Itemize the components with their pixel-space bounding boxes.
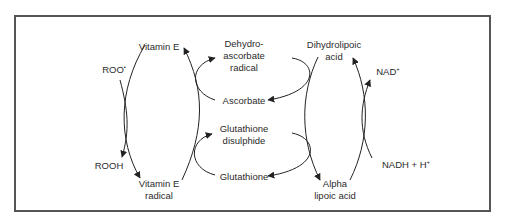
label-ascorbate: Ascorbate: [223, 95, 266, 107]
label-dihydrolipoic-acid: Dihydrolipoicacid: [307, 39, 361, 63]
label-glutathione: Glutathione: [220, 171, 269, 183]
reaction-arrows: [0, 0, 509, 223]
label-vitamin-e-radical: Vitamin Eradical: [139, 178, 179, 202]
arrow-gssg-to-gsh: [268, 133, 310, 176]
label-glutathione-disulphide: Glutathionedisulphide: [220, 123, 269, 147]
label-rooh: ROOH: [95, 160, 124, 172]
label-vitamin-e: Vitamin E: [139, 41, 179, 53]
label-dehydroascorbate-radical: Dehydro-ascorbateradical: [223, 38, 265, 74]
arrow-viteradical-to-vite: [182, 48, 200, 180]
label-nad-plus: NAD+: [376, 66, 400, 78]
arrow-dhar-to-ascorbate: [268, 58, 310, 100]
arrow-roo-to-rooh: [120, 80, 127, 157]
arrow-ala-to-dla: [350, 58, 365, 180]
arrow-dla-to-ala: [305, 57, 320, 180]
label-roo: ROO•: [102, 64, 126, 76]
arrow-gsh-to-gssg: [194, 134, 215, 175]
label-nadh-h-plus: NADH + H+: [382, 159, 430, 171]
arrow-vite-to-viteradical: [124, 45, 145, 178]
label-alpha-lipoic-acid: Alphalipoic acid: [314, 178, 356, 202]
